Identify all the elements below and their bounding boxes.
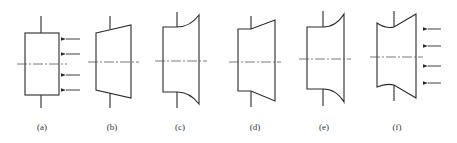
panel-b xyxy=(88,16,139,108)
panel-label-a: (a) xyxy=(37,122,47,132)
panel-label-e: (e) xyxy=(319,122,329,132)
blade-profiles-diagram xyxy=(0,0,457,143)
panel-label-c: (c) xyxy=(175,122,185,132)
profile-outline xyxy=(163,15,199,104)
panel-f xyxy=(370,11,441,101)
panel-d xyxy=(229,16,281,107)
panel-label-b: (b) xyxy=(107,122,118,132)
profile-outline xyxy=(238,20,275,101)
flow-arrows xyxy=(66,39,80,90)
panel-label-f: (f) xyxy=(393,122,402,132)
panel-a xyxy=(17,16,80,108)
profile-outline xyxy=(96,25,131,98)
flow-arrows xyxy=(428,29,441,83)
panel-label-d: (d) xyxy=(250,122,261,132)
profile-outline xyxy=(307,14,344,102)
profile-outline xyxy=(377,14,416,98)
panel-e xyxy=(299,11,351,106)
panel-c xyxy=(155,12,207,108)
